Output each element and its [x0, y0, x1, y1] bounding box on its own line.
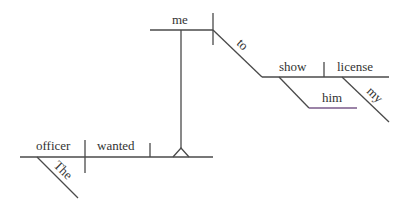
word-me: me	[172, 12, 188, 27]
infinitive-marker-line	[213, 30, 262, 77]
word-to: to	[234, 35, 252, 53]
pedestal-triangle	[173, 148, 189, 157]
word-show: show	[279, 59, 307, 74]
word-wanted: wanted	[97, 138, 135, 153]
object-modifier-line	[342, 77, 389, 122]
word-license: license	[337, 59, 373, 74]
indirect-object-slant	[279, 77, 309, 108]
word-my: my	[364, 83, 387, 106]
word-the: The	[51, 158, 76, 183]
word-officer: officer	[36, 138, 71, 153]
sentence-diagram: The officer wanted me to show license hi…	[0, 0, 403, 210]
word-him: him	[322, 90, 342, 105]
